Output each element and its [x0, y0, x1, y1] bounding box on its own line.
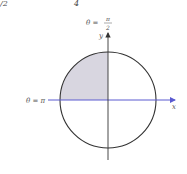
label-theta-pi: θ = π	[26, 97, 46, 105]
label-theta-pi-over-2: θ =	[86, 19, 98, 27]
axis-label-y: y	[98, 32, 104, 40]
label-fraction-denominator: 2	[105, 24, 110, 31]
axis-label-x: x	[172, 103, 176, 111]
polar-circle-diagram: y x θ = π θ = π 2	[0, 0, 187, 174]
label-fraction-numerator: π	[105, 15, 111, 22]
shaded-region	[60, 52, 108, 100]
